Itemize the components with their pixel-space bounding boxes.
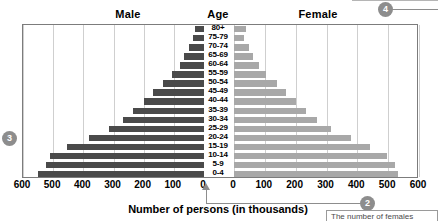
- bar-male-25-29: [109, 126, 204, 132]
- bar-male-15-19: [67, 144, 204, 150]
- age-label-25-29: 25-29: [203, 124, 233, 133]
- bar-male-50-54: [163, 80, 204, 86]
- chart-header-female: Female: [278, 8, 358, 20]
- top-rule-decoration: [352, 0, 438, 1]
- x-axis-female: 0100200300400500600: [233, 179, 418, 192]
- female-panel: [234, 25, 419, 177]
- bar-row-female: [234, 170, 419, 179]
- bar-female-40-44: [234, 98, 296, 104]
- bar-row-female: [234, 152, 419, 161]
- bar-male-35-39: [133, 108, 204, 114]
- bar-row-male: [23, 52, 204, 61]
- bar-female-45-49: [234, 89, 286, 95]
- annotation-note-text: The number of females: [331, 212, 413, 221]
- callout-marker-2[interactable]: 2: [360, 196, 375, 211]
- x-tick-male-500: 500: [44, 179, 61, 190]
- chart-header-age: Age: [185, 8, 251, 20]
- bar-row-male: [23, 97, 204, 106]
- annotation-note-box: The number of females: [326, 210, 438, 221]
- bar-row-female: [234, 107, 419, 116]
- bar-female-10-14: [234, 153, 387, 159]
- age-label-0-4: 0-4: [203, 169, 233, 178]
- bar-male-5-9: [46, 162, 204, 168]
- bar-row-male: [23, 161, 204, 170]
- age-label-column: 80+75-7970-7465-6960-6455-5950-5445-4940…: [203, 24, 233, 178]
- bar-row-female: [234, 43, 419, 52]
- bar-row-female: [234, 134, 419, 143]
- bar-male-45-49: [153, 89, 204, 95]
- bar-female-70-74: [234, 44, 249, 50]
- bar-male-40-44: [144, 98, 204, 104]
- bar-row-female: [234, 143, 419, 152]
- age-label-20-24: 20-24: [203, 133, 233, 142]
- population-pyramid-chart: Male Age Female 80+75-7970-7465-6960-645…: [0, 0, 438, 221]
- x-tick-female-600: 600: [410, 179, 427, 190]
- bar-row-male: [23, 34, 204, 43]
- bar-female-55-59: [234, 71, 266, 77]
- bar-female-25-29: [234, 126, 331, 132]
- age-label-35-39: 35-39: [203, 106, 233, 115]
- bar-row-male: [23, 61, 204, 70]
- bar-row-female: [234, 34, 419, 43]
- x-tick-female-100: 100: [255, 179, 272, 190]
- bar-female-30-34: [234, 117, 317, 123]
- bar-female-0-4: [234, 171, 398, 177]
- bar-row-male: [23, 107, 204, 116]
- bar-female-65-69: [234, 53, 253, 59]
- bar-male-10-14: [50, 153, 204, 159]
- bar-row-female: [234, 52, 419, 61]
- bar-row-male: [23, 25, 204, 34]
- bar-row-male: [23, 170, 204, 179]
- bar-row-male: [23, 152, 204, 161]
- bar-female-20-24: [234, 135, 351, 141]
- bar-row-female: [234, 61, 419, 70]
- x-tick-female-200: 200: [286, 179, 303, 190]
- bar-row-female: [234, 161, 419, 170]
- x-tick-male-100: 100: [164, 179, 181, 190]
- bar-female-80+: [234, 26, 246, 32]
- bar-male-20-24: [89, 135, 204, 141]
- x-axis-title: Number of persons (in thousands): [108, 203, 328, 215]
- bar-female-50-54: [234, 80, 277, 86]
- age-label-30-34: 30-34: [203, 115, 233, 124]
- bar-row-female: [234, 88, 419, 97]
- age-label-15-19: 15-19: [203, 142, 233, 151]
- bar-row-male: [23, 88, 204, 97]
- bar-male-65-69: [184, 53, 204, 59]
- callout-leader-2-horizontal: [206, 203, 368, 204]
- x-tick-female-0: 0: [230, 179, 236, 190]
- bar-row-female: [234, 79, 419, 88]
- callout-marker-3[interactable]: 3: [2, 131, 17, 146]
- bar-row-male: [23, 70, 204, 79]
- bar-male-0-4: [38, 171, 204, 177]
- gridline-female-600: [419, 25, 420, 177]
- bar-row-male: [23, 125, 204, 134]
- bar-row-female: [234, 70, 419, 79]
- bar-row-female: [234, 125, 419, 134]
- bar-male-60-64: [180, 62, 204, 68]
- bar-male-70-74: [189, 44, 204, 50]
- bar-female-5-9: [234, 162, 395, 168]
- bar-female-15-19: [234, 144, 370, 150]
- bar-male-55-59: [172, 71, 204, 77]
- bar-row-female: [234, 25, 419, 34]
- bar-row-male: [23, 116, 204, 125]
- callout-leader-4: [388, 9, 438, 10]
- bar-female-35-39: [234, 108, 306, 114]
- x-tick-male-600: 600: [14, 179, 31, 190]
- x-tick-male-300: 300: [104, 179, 121, 190]
- chart-header-male: Male: [88, 8, 168, 20]
- bar-row-male: [23, 43, 204, 52]
- bar-row-female: [234, 116, 419, 125]
- x-axis-male: 6005004003002001000: [22, 179, 203, 192]
- bar-female-60-64: [234, 62, 259, 68]
- bar-row-male: [23, 134, 204, 143]
- male-panel: [23, 25, 204, 177]
- x-tick-male-200: 200: [134, 179, 151, 190]
- x-tick-female-300: 300: [317, 179, 334, 190]
- bar-row-male: [23, 143, 204, 152]
- x-tick-male-400: 400: [74, 179, 91, 190]
- callout-arrow-2: [202, 183, 210, 190]
- x-tick-female-400: 400: [348, 179, 365, 190]
- bar-row-male: [23, 79, 204, 88]
